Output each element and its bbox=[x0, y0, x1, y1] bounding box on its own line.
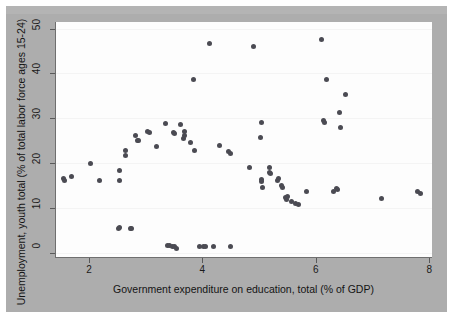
data-point bbox=[228, 151, 233, 156]
data-points-layer bbox=[56, 22, 432, 257]
data-point bbox=[217, 143, 222, 148]
data-point bbox=[335, 187, 340, 192]
data-point bbox=[192, 148, 197, 153]
data-point bbox=[117, 225, 122, 230]
y-axis-tick-label: 20 bbox=[31, 153, 47, 164]
data-point bbox=[259, 179, 264, 184]
y-axis-tick-label: 30 bbox=[31, 108, 47, 119]
data-point bbox=[172, 131, 177, 136]
x-axis-title: Government expenditure on education, tot… bbox=[55, 283, 432, 295]
gridline bbox=[56, 253, 432, 254]
data-point bbox=[123, 153, 128, 158]
data-point bbox=[343, 92, 348, 97]
data-point bbox=[251, 44, 256, 49]
data-point bbox=[280, 185, 285, 190]
data-point bbox=[97, 178, 102, 183]
data-point bbox=[163, 121, 168, 126]
gridline bbox=[56, 118, 432, 119]
data-point bbox=[136, 138, 141, 143]
data-point bbox=[258, 135, 263, 140]
gridline bbox=[56, 208, 432, 209]
x-axis-tick bbox=[89, 258, 90, 263]
data-point bbox=[117, 178, 122, 183]
x-axis-tick bbox=[429, 258, 430, 263]
data-point bbox=[181, 136, 186, 141]
data-point bbox=[203, 244, 208, 249]
data-point bbox=[88, 161, 93, 166]
data-point bbox=[154, 144, 159, 149]
data-point bbox=[337, 110, 342, 115]
data-point bbox=[319, 37, 324, 42]
data-point bbox=[123, 148, 128, 153]
data-point bbox=[268, 171, 273, 176]
data-point bbox=[62, 178, 67, 183]
data-point bbox=[322, 120, 327, 125]
gridline bbox=[56, 163, 432, 164]
data-point bbox=[174, 246, 179, 251]
data-point bbox=[117, 168, 122, 173]
data-point bbox=[69, 174, 74, 179]
data-point bbox=[296, 202, 301, 207]
x-axis-tick-label: 2 bbox=[74, 264, 104, 275]
y-axis-tick-label: 10 bbox=[31, 198, 47, 209]
data-point bbox=[304, 189, 309, 194]
data-point bbox=[129, 226, 134, 231]
gridline bbox=[56, 73, 432, 74]
y-axis-tick-label: 50 bbox=[31, 19, 47, 30]
x-axis-tick-label: 4 bbox=[187, 264, 217, 275]
data-point bbox=[338, 125, 343, 130]
data-point bbox=[324, 77, 329, 82]
data-point bbox=[247, 165, 252, 170]
data-point bbox=[260, 185, 265, 190]
data-point bbox=[147, 130, 152, 135]
data-point bbox=[379, 196, 384, 201]
x-axis-tick-label: 8 bbox=[414, 264, 444, 275]
x-axis-tick bbox=[316, 258, 317, 263]
data-point bbox=[191, 77, 196, 82]
data-point bbox=[188, 140, 193, 145]
y-axis-tick-label: 0 bbox=[31, 243, 47, 249]
x-axis-tick bbox=[202, 258, 203, 263]
data-point bbox=[418, 191, 423, 196]
x-axis-tick-label: 6 bbox=[301, 264, 331, 275]
data-point bbox=[178, 122, 183, 127]
scatter-plot-figure: 01020304050 2468 Government expenditure … bbox=[0, 0, 453, 324]
gridline bbox=[56, 29, 432, 30]
data-point bbox=[228, 244, 233, 249]
data-point bbox=[259, 120, 264, 125]
data-point bbox=[276, 176, 281, 181]
data-point bbox=[207, 41, 212, 46]
plot-area bbox=[55, 22, 432, 258]
y-axis-title: Unemployment, youth total (% of total la… bbox=[10, 0, 32, 324]
data-point bbox=[211, 244, 216, 249]
y-axis-tick-label: 40 bbox=[31, 63, 47, 74]
